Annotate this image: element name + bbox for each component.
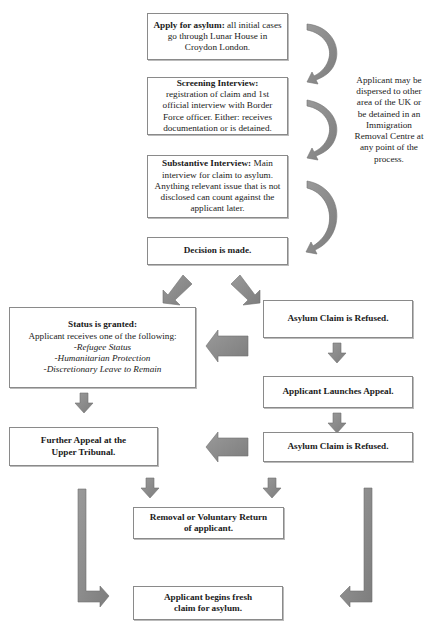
step-claim-refused-1: Asylum Claim is Refused. [263,300,413,338]
step-title: Asylum Claim is Refused. [287,441,388,452]
option-humanitarian-protection: -Humanitarian Protection [28,353,176,364]
curved-arrow-icon [307,100,337,160]
step-substantive-interview: Substantive Interview: Main interview fo… [147,155,288,218]
step-further-appeal: Further Appeal at the Upper Tribunal. [9,427,158,466]
step-text: registration of claim and 1st official i… [163,89,273,133]
step-decision: Decision is made. [147,237,288,265]
step-title: Asylum Claim is Refused. [287,313,388,324]
step-title: Screening Interview: [153,78,282,89]
arrow-down-icon [263,478,281,498]
step-removal: Removal or Voluntary Return of applicant… [133,507,284,539]
arrow-down-icon [328,343,346,363]
arrow-down-icon [328,413,346,433]
step-title: Status is granted: [28,319,176,330]
diagonal-arrow-down-right-icon [231,275,260,305]
step-text: Applicant receives one of the following: [28,331,176,342]
step-apply-for-asylum: Apply for asylum: all initial cases go t… [147,13,288,60]
step-title: Applicant begins fresh claim for asylum. [139,592,277,614]
step-title: Substantive Interview: [162,158,251,168]
step-claim-refused-2: Asylum Claim is Refused. [263,432,413,462]
arrow-left-icon [206,330,248,362]
elbow-arrow-left-icon [340,488,372,607]
step-launches-appeal: Applicant Launches Appeal. [263,376,413,408]
side-note: Applicant may be dispersed to other area… [352,75,426,165]
diagonal-arrow-down-left-icon [163,275,192,305]
curved-arrow-icon [306,181,337,254]
step-screening-interview: Screening Interview:registration of clai… [147,77,288,135]
arrow-down-icon [141,478,159,498]
step-status-granted: Status is granted: Applicant receives on… [9,307,196,388]
step-title: Removal or Voluntary Return of applicant… [139,512,278,534]
curved-arrow-icon [307,24,337,84]
step-fresh-claim: Applicant begins fresh claim for asylum. [133,586,283,620]
option-discretionary-leave: -Discretionary Leave to Remain [28,364,176,375]
step-title: Decision is made. [184,245,252,256]
step-title: Applicant Launches Appeal. [282,386,393,397]
step-title: Further Appeal at the Upper Tribunal. [15,435,152,457]
elbow-arrow-right-icon [78,489,109,607]
step-title: Apply for asylum: [153,20,224,30]
arrow-left-icon [206,432,248,462]
option-refugee-status: -Refugee Status [28,342,176,353]
arrow-down-icon [75,393,93,413]
